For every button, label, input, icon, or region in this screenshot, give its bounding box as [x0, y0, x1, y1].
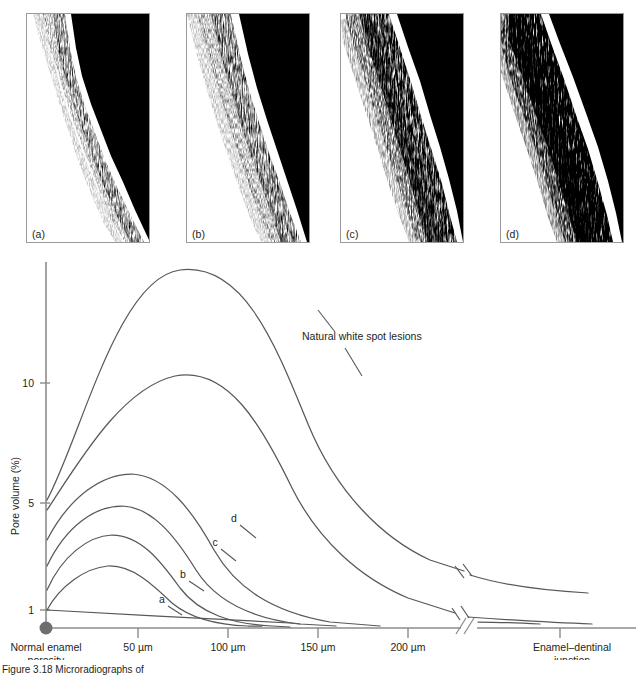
origin-marker-dot	[40, 622, 53, 635]
micrograph-panel-d: (d)	[500, 13, 624, 243]
micrograph-panel-a: (a)	[26, 13, 150, 243]
annotation-natural-white-spot-lesions: Natural white spot lesions	[302, 330, 422, 342]
curve-break-marks	[452, 564, 472, 620]
x-axis-break-icon	[456, 618, 474, 634]
panel-label-a: (a)	[32, 228, 45, 240]
curve-label-a: a	[159, 593, 165, 605]
x-tick-label-150: 150 µm	[300, 641, 335, 653]
panel-label-b: (b)	[192, 228, 205, 240]
x-origin-label-line2: porosity	[28, 654, 66, 660]
y-tick-label-1: 1	[28, 604, 34, 616]
x-origin-label-line1: Normal enamel	[10, 641, 81, 653]
curve-series-g-after-break	[470, 575, 588, 593]
curve-series-e	[47, 474, 380, 626]
curve-series-d	[47, 506, 336, 626]
curve-series-e-after-break	[478, 622, 540, 624]
micrograph-panel-c: (c)	[340, 13, 464, 243]
chart-svg: 1 5 10 Pore volume (%) 50 µm 100 µm 150 …	[0, 248, 639, 660]
micrograph-panel-b: (b)	[186, 13, 310, 243]
micrograph-image-d	[501, 14, 623, 242]
curve-label-b: b	[180, 568, 186, 580]
y-tick-label-10: 10	[22, 377, 34, 389]
y-axis-title: Pore volume (%)	[9, 457, 21, 535]
figure-container: (a)	[0, 0, 639, 678]
curve-series-f	[47, 375, 455, 613]
curve-label-c: c	[212, 536, 217, 548]
figure-caption: Figure 3.18 Microradiographs of	[2, 664, 639, 678]
panel-label-c: (c)	[346, 228, 359, 240]
x-end-label-line1: Enamel–dentinal	[533, 641, 611, 653]
x-end-label-line2: junction	[553, 654, 590, 660]
micrograph-image-c	[341, 14, 463, 242]
micrograph-image-b	[187, 14, 309, 242]
micrograph-image-a	[27, 14, 149, 242]
curve-series-g	[47, 269, 464, 571]
y-tick-label-5: 5	[28, 497, 34, 509]
x-tick-label-100: 100 µm	[210, 641, 245, 653]
curve-label-d: d	[231, 512, 237, 524]
x-tick-label-50: 50 µm	[123, 641, 153, 653]
panel-label-d: (d)	[506, 228, 519, 240]
curve-series-b	[47, 566, 262, 626]
annotation-leader-lines	[318, 310, 362, 376]
x-tick-label-200: 200 µm	[390, 641, 425, 653]
pore-volume-chart: 1 5 10 Pore volume (%) 50 µm 100 µm 150 …	[0, 248, 639, 660]
